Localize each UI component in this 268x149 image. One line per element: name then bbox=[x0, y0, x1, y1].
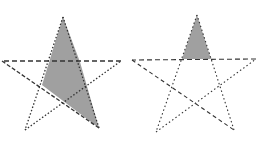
right-star bbox=[132, 15, 256, 132]
star-edge bbox=[197, 15, 234, 130]
left-star bbox=[2, 17, 121, 130]
star-edge bbox=[132, 60, 234, 130]
star-edge bbox=[156, 15, 197, 132]
star-edge bbox=[156, 59, 256, 132]
star-edge bbox=[132, 59, 256, 60]
two-stars-diagram bbox=[0, 0, 268, 149]
right-star-shaded-region bbox=[182, 15, 211, 59]
